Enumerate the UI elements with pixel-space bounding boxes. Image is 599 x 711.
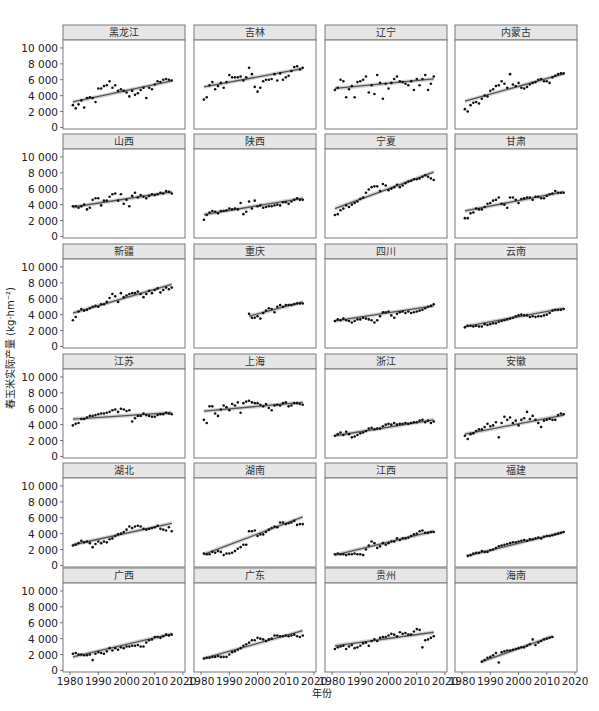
x-tick-label: 1980 bbox=[57, 675, 84, 687]
data-point bbox=[384, 311, 387, 314]
data-point bbox=[500, 544, 503, 547]
data-point bbox=[131, 644, 134, 647]
data-point bbox=[134, 94, 137, 97]
data-point bbox=[351, 436, 354, 439]
data-point bbox=[500, 422, 503, 425]
data-point bbox=[234, 650, 237, 653]
data-point bbox=[562, 308, 565, 311]
data-point bbox=[270, 78, 273, 81]
data-point bbox=[336, 213, 339, 216]
data-point bbox=[262, 638, 265, 641]
data-point bbox=[495, 421, 498, 424]
data-point bbox=[111, 193, 114, 196]
data-point bbox=[222, 210, 225, 213]
data-point bbox=[137, 415, 140, 418]
x-tick-label: 1990 bbox=[216, 675, 243, 687]
data-point bbox=[483, 659, 486, 662]
data-point bbox=[365, 430, 368, 433]
data-point bbox=[111, 649, 114, 652]
data-point bbox=[512, 422, 515, 425]
data-point bbox=[336, 433, 339, 436]
panel-title: 吉林 bbox=[245, 26, 265, 38]
data-point bbox=[517, 647, 520, 650]
data-point bbox=[262, 80, 265, 83]
data-point bbox=[159, 81, 162, 84]
data-point bbox=[486, 324, 489, 327]
data-point bbox=[94, 101, 97, 104]
data-point bbox=[427, 419, 430, 422]
x-tick-label: 1980 bbox=[188, 675, 215, 687]
data-point bbox=[253, 86, 256, 89]
data-point bbox=[407, 310, 410, 313]
data-point bbox=[234, 550, 237, 553]
data-point bbox=[168, 526, 171, 529]
data-point bbox=[407, 423, 410, 426]
data-point bbox=[100, 412, 103, 415]
data-point bbox=[509, 416, 512, 419]
data-point bbox=[89, 653, 92, 656]
plot-area bbox=[325, 369, 447, 458]
data-point bbox=[225, 81, 228, 84]
data-point bbox=[256, 90, 259, 93]
data-point bbox=[137, 524, 140, 527]
panel-宁夏: 宁夏 bbox=[325, 134, 447, 238]
data-point bbox=[486, 656, 489, 659]
y-tick-label: 0 bbox=[51, 121, 58, 133]
data-point bbox=[401, 537, 404, 540]
y-tick-label: 2 000 bbox=[28, 649, 58, 661]
data-point bbox=[393, 422, 396, 425]
data-point bbox=[94, 414, 97, 417]
data-point bbox=[562, 413, 565, 416]
data-point bbox=[256, 205, 259, 208]
data-point bbox=[287, 635, 290, 638]
data-point bbox=[545, 637, 548, 640]
y-tick-label: 8 000 bbox=[28, 167, 58, 179]
data-point bbox=[162, 78, 165, 81]
panel-title: 内蒙古 bbox=[501, 26, 531, 38]
data-point bbox=[262, 405, 265, 408]
data-point bbox=[396, 423, 399, 426]
data-point bbox=[97, 305, 100, 308]
data-point bbox=[531, 415, 534, 418]
data-point bbox=[478, 325, 481, 328]
data-point bbox=[339, 431, 342, 434]
data-point bbox=[165, 529, 168, 532]
data-point bbox=[514, 315, 517, 318]
data-point bbox=[469, 433, 472, 436]
data-point bbox=[413, 421, 416, 424]
data-point bbox=[91, 415, 94, 418]
data-point bbox=[526, 314, 529, 317]
data-point bbox=[220, 210, 223, 213]
data-point bbox=[108, 195, 111, 198]
data-point bbox=[91, 659, 94, 662]
data-point bbox=[384, 423, 387, 426]
data-point bbox=[404, 82, 407, 85]
data-point bbox=[503, 415, 506, 418]
data-point bbox=[205, 422, 208, 425]
data-point bbox=[376, 640, 379, 643]
data-point bbox=[114, 295, 117, 298]
data-point bbox=[537, 315, 540, 318]
data-point bbox=[293, 633, 296, 636]
data-point bbox=[506, 543, 509, 546]
data-point bbox=[122, 408, 125, 411]
data-point bbox=[86, 208, 89, 211]
data-point bbox=[72, 544, 75, 547]
data-point bbox=[134, 644, 137, 647]
data-point bbox=[545, 419, 548, 422]
data-point bbox=[404, 312, 407, 315]
data-point bbox=[489, 202, 492, 205]
data-point bbox=[74, 543, 77, 546]
data-point bbox=[148, 415, 151, 418]
x-tick-label: 2000 bbox=[375, 675, 402, 687]
data-point bbox=[151, 292, 154, 295]
data-point bbox=[268, 528, 271, 531]
x-tick-label: 2010 bbox=[141, 675, 168, 687]
data-point bbox=[356, 553, 359, 556]
data-point bbox=[248, 67, 251, 70]
data-point bbox=[296, 197, 299, 200]
y-tick-label: 6 000 bbox=[28, 512, 58, 524]
data-point bbox=[148, 528, 151, 531]
panel-黑龙江: 黑龙江 bbox=[63, 25, 185, 129]
y-tick-label: 4 000 bbox=[28, 309, 58, 321]
